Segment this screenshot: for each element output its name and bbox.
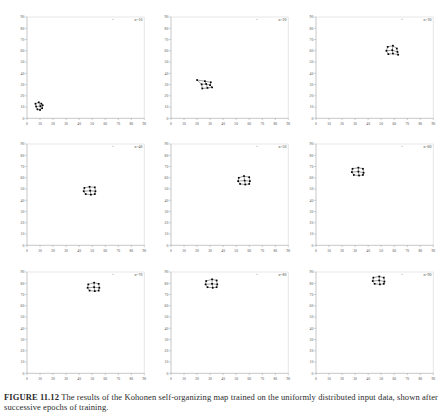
panel-label: n=60 (423, 146, 431, 150)
svg-text:50: 50 (309, 315, 313, 319)
stray-point (113, 19, 114, 20)
svg-text:90: 90 (431, 249, 435, 253)
svg-text:80: 80 (274, 249, 278, 253)
svg-text:30: 30 (165, 83, 169, 87)
svg-text:50: 50 (165, 188, 169, 192)
figure-caption-text: The results of the Kohonen self-organizi… (4, 392, 438, 412)
svg-text:10: 10 (327, 249, 331, 253)
svg-text:10: 10 (38, 249, 42, 253)
svg-text:50: 50 (379, 377, 383, 381)
panel-label: n=10 (134, 18, 142, 22)
svg-text:0: 0 (22, 244, 24, 248)
axis-spines (27, 17, 144, 118)
svg-text:60: 60 (21, 49, 25, 53)
svg-text:30: 30 (353, 122, 357, 126)
svg-text:90: 90 (309, 270, 313, 274)
svg-text:80: 80 (274, 122, 278, 126)
svg-text:60: 60 (309, 49, 313, 53)
svg-text:90: 90 (21, 143, 25, 147)
svg-text:30: 30 (21, 210, 25, 214)
svg-text:50: 50 (309, 60, 313, 64)
svg-text:90: 90 (143, 377, 147, 381)
svg-text:30: 30 (64, 377, 68, 381)
figure-container: 01020304050607080900102030405060708090n=… (0, 0, 445, 412)
svg-text:50: 50 (21, 60, 25, 64)
svg-text:60: 60 (165, 304, 169, 308)
svg-text:40: 40 (165, 72, 169, 76)
scatter-panel-5: 01020304050607080900102030405060708090n=… (150, 135, 294, 262)
panel-label: n=80 (279, 273, 287, 277)
scatter-panel-3: 01020304050607080900102030405060708090n=… (295, 8, 439, 135)
svg-text:80: 80 (309, 27, 313, 31)
svg-text:90: 90 (143, 122, 147, 126)
svg-text:20: 20 (21, 94, 25, 98)
svg-text:40: 40 (21, 326, 25, 330)
svg-text:0: 0 (167, 371, 169, 375)
svg-text:50: 50 (235, 249, 239, 253)
svg-text:30: 30 (165, 210, 169, 214)
svg-text:20: 20 (196, 249, 200, 253)
svg-text:30: 30 (209, 249, 213, 253)
svg-text:20: 20 (196, 122, 200, 126)
lattice-nodes (205, 278, 218, 288)
svg-text:20: 20 (309, 349, 313, 353)
svg-text:90: 90 (165, 270, 169, 274)
svg-text:70: 70 (405, 122, 409, 126)
svg-text:80: 80 (418, 377, 422, 381)
svg-text:20: 20 (309, 221, 313, 225)
svg-text:40: 40 (21, 199, 25, 203)
svg-text:10: 10 (309, 360, 313, 364)
svg-text:40: 40 (366, 377, 370, 381)
svg-text:50: 50 (379, 249, 383, 253)
svg-text:80: 80 (309, 154, 313, 158)
svg-text:60: 60 (248, 249, 252, 253)
svg-text:0: 0 (22, 117, 24, 121)
svg-text:20: 20 (21, 221, 25, 225)
svg-text:80: 80 (21, 27, 25, 31)
svg-text:0: 0 (26, 377, 28, 381)
svg-text:80: 80 (418, 122, 422, 126)
panel-label: n=40 (134, 146, 142, 150)
svg-text:30: 30 (309, 210, 313, 214)
svg-text:70: 70 (405, 377, 409, 381)
axis-spines (171, 17, 288, 118)
svg-text:10: 10 (183, 377, 187, 381)
svg-text:50: 50 (309, 188, 313, 192)
panel-label: n=30 (423, 18, 431, 22)
svg-text:0: 0 (311, 371, 313, 375)
svg-text:70: 70 (405, 249, 409, 253)
axis-spines (171, 144, 288, 245)
svg-text:40: 40 (77, 122, 81, 126)
svg-text:60: 60 (21, 176, 25, 180)
scatter-panel-4: 01020304050607080900102030405060708090n=… (6, 135, 150, 262)
svg-text:0: 0 (26, 122, 28, 126)
svg-text:50: 50 (90, 249, 94, 253)
axis-spines (316, 144, 433, 245)
svg-text:0: 0 (170, 249, 172, 253)
svg-text:90: 90 (431, 377, 435, 381)
svg-text:30: 30 (64, 122, 68, 126)
svg-text:10: 10 (309, 105, 313, 109)
svg-text:70: 70 (21, 38, 25, 42)
axis-ticks: 01020304050607080900102030405060708090 (21, 270, 147, 381)
svg-text:20: 20 (51, 249, 55, 253)
svg-text:40: 40 (309, 326, 313, 330)
axis-ticks: 01020304050607080900102030405060708090 (309, 270, 435, 381)
svg-text:80: 80 (165, 27, 169, 31)
svg-text:70: 70 (21, 292, 25, 296)
svg-text:30: 30 (165, 338, 169, 342)
svg-text:50: 50 (90, 122, 94, 126)
svg-text:10: 10 (38, 122, 42, 126)
svg-text:30: 30 (209, 377, 213, 381)
axis-spines (316, 272, 433, 373)
svg-text:30: 30 (309, 83, 313, 87)
svg-text:30: 30 (209, 122, 213, 126)
svg-text:30: 30 (21, 338, 25, 342)
svg-text:10: 10 (165, 105, 169, 109)
svg-text:80: 80 (129, 377, 133, 381)
svg-text:90: 90 (143, 249, 147, 253)
svg-text:10: 10 (183, 122, 187, 126)
svg-text:20: 20 (51, 377, 55, 381)
svg-text:0: 0 (170, 377, 172, 381)
axis-ticks: 01020304050607080900102030405060708090 (309, 15, 435, 126)
